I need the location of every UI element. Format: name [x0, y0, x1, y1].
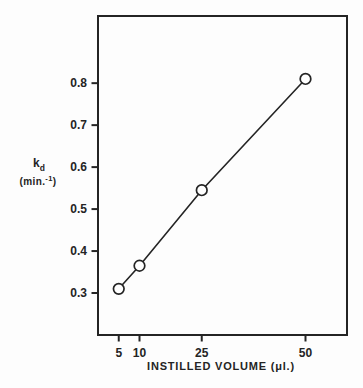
data-point-marker: [300, 74, 311, 85]
y-tick-label: 0.8: [70, 76, 87, 90]
scanned-figure: 0.30.40.50.60.70.85102550 INSTILLED VOLU…: [0, 0, 363, 388]
x-tick-label: 5: [115, 346, 122, 360]
y-axis-label: kd: [33, 156, 45, 173]
y-axis-units-superscript: -1: [45, 174, 52, 183]
x-tick-label: 10: [133, 346, 147, 360]
y-axis-units-open: (min.: [19, 176, 45, 187]
x-axis-label: INSTILLED VOLUME (μl.): [147, 360, 295, 372]
plot-area: 0.30.40.50.60.70.85102550: [70, 16, 347, 360]
y-axis-units: (min.-1): [19, 174, 56, 187]
kd-vs-instilled-volume-chart: 0.30.40.50.60.70.85102550 INSTILLED VOLU…: [0, 0, 363, 388]
y-tick-label: 0.5: [70, 202, 87, 216]
y-axis-units-close: ): [53, 176, 57, 187]
y-tick-label: 0.7: [70, 118, 87, 132]
data-point-marker: [196, 185, 207, 196]
x-tick-label: 25: [195, 346, 209, 360]
plot-frame: [98, 16, 347, 335]
data-point-marker: [134, 260, 145, 271]
x-tick-label: 50: [299, 346, 313, 360]
data-point-marker: [113, 284, 124, 295]
y-axis-label-subscript: d: [40, 163, 45, 173]
data-line: [119, 79, 306, 289]
y-tick-label: 0.3: [70, 286, 87, 300]
y-tick-label: 0.4: [70, 244, 87, 258]
y-tick-label: 0.6: [70, 160, 87, 174]
